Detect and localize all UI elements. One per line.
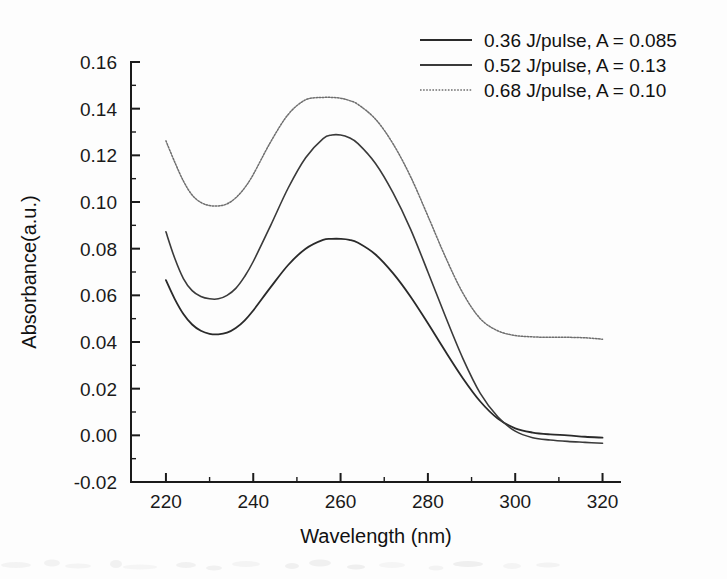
y-tick-labels: -0.020.000.020.040.060.080.100.120.140.1… (74, 52, 118, 493)
legend-label-2: 0.68 J/pulse, A = 0.10 (484, 80, 666, 101)
y-tick-label: -0.02 (74, 472, 117, 493)
y-tick-label: 0.08 (80, 239, 117, 260)
y-tick-label: 0.00 (80, 425, 117, 446)
chart-axes (131, 62, 620, 482)
axis-spine (131, 62, 620, 482)
chart-figure: 220240260280300320 -0.020.000.020.040.06… (0, 0, 727, 579)
x-axis-title: Wavelength (nm) (300, 525, 452, 547)
x-tick-label: 320 (587, 491, 619, 512)
x-tick-labels: 220240260280300320 (150, 491, 618, 512)
y-tick-label: 0.16 (80, 52, 117, 73)
absorbance-spectra-chart: 220240260280300320 -0.020.000.020.040.06… (0, 0, 727, 579)
y-tick-label: 0.04 (80, 332, 117, 353)
series-line-0 (166, 239, 603, 438)
x-tick-label: 260 (325, 491, 357, 512)
legend-label-1: 0.52 J/pulse, A = 0.13 (484, 55, 666, 76)
x-tick-label: 300 (499, 491, 531, 512)
x-tick-label: 220 (150, 491, 182, 512)
chart-series (166, 97, 603, 443)
y-tick-label: 0.02 (80, 379, 117, 400)
series-line-2 (166, 97, 603, 339)
legend-label-0: 0.36 J/pulse, A = 0.085 (484, 30, 677, 51)
x-tick-label: 280 (412, 491, 444, 512)
chart-legend: 0.36 J/pulse, A = 0.0850.52 J/pulse, A =… (420, 30, 677, 101)
x-tick-label: 240 (237, 491, 269, 512)
y-tick-label: 0.06 (80, 285, 117, 306)
y-tick-label: 0.10 (80, 192, 117, 213)
y-axis-title: Absorbance(a.u.) (18, 195, 40, 348)
series-line-1 (166, 135, 603, 444)
y-tick-label: 0.14 (80, 99, 117, 120)
chart-ticks (131, 62, 603, 482)
y-tick-label: 0.12 (80, 145, 117, 166)
